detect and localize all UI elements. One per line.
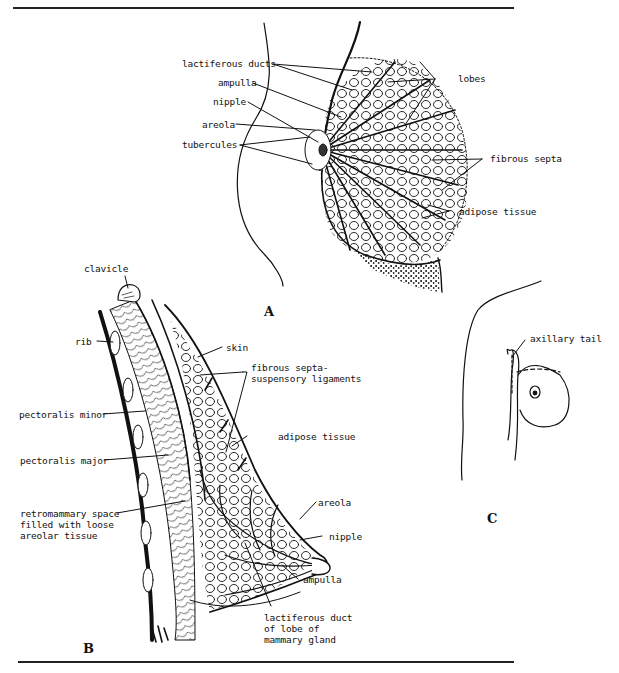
label-areola-b: areola	[318, 497, 351, 508]
panel-b-drawing	[97, 276, 330, 642]
label-adipose-tissue-a: adipose tissue	[459, 206, 536, 217]
label-ampulla-b: ampulla	[303, 574, 342, 585]
panel-letter-b: B	[83, 641, 94, 656]
label-lobes: lobes	[458, 73, 486, 84]
label-areola: areola	[202, 119, 235, 130]
panel-letter-a: A	[264, 304, 274, 319]
label-pectoralis-minor: pectoralis minor	[19, 409, 107, 420]
label-skin: skin	[226, 342, 248, 353]
label-lactiferous-ducts: lactiferous ducts	[182, 58, 276, 69]
label-pectoralis-major: pectoralis major	[20, 455, 108, 466]
label-retromammary-space: retromammary space filled with loose are…	[20, 508, 119, 541]
label-nipple: nipple	[213, 96, 246, 107]
panel-c-drawing	[461, 281, 569, 480]
label-tubercules: tubercules	[182, 139, 237, 150]
anatomy-illustration	[0, 0, 619, 673]
label-nipple-b: nipple	[329, 531, 362, 542]
label-ampulla: ampulla	[218, 77, 257, 88]
label-lactiferous-duct: lactiferous duct of lobe of mammary glan…	[264, 612, 352, 645]
label-clavicle: clavicle	[84, 263, 128, 274]
label-rib: rib	[75, 336, 92, 347]
label-axillary-tail: axillary tail	[530, 333, 602, 344]
label-fibrous-septa-suspensory-ligaments: fibrous septa- suspensory ligaments	[251, 362, 361, 384]
label-adipose-tissue-b: adipose tissue	[278, 431, 355, 442]
label-fibrous-septa: fibrous septa	[490, 153, 562, 164]
panel-letter-c: C	[487, 511, 497, 526]
